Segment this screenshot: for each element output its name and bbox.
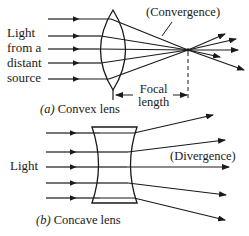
caption-letter: (b) <box>36 213 51 227</box>
caption-text: Concave lens <box>54 213 121 227</box>
concave-lens-panel <box>46 115 229 220</box>
label-line: Light <box>7 25 42 40</box>
concave-lens-icon <box>92 127 137 203</box>
caption-concave: (b) Concave lens <box>36 214 121 227</box>
diverging-rays <box>127 115 229 220</box>
caption-letter: (a) <box>40 102 55 116</box>
divergence-label: (Divergence) <box>170 150 236 163</box>
converging-rays <box>99 19 188 79</box>
convergence-leader <box>162 22 172 36</box>
label-line: distant <box>7 55 42 70</box>
convergence-label: (Convergence) <box>146 6 220 19</box>
label-line: length <box>138 96 169 109</box>
caption-convex: (a) Convex lens <box>40 103 120 116</box>
light-source-label-b: Light <box>10 159 38 172</box>
post-focus-rays <box>188 34 244 70</box>
caption-text: Convex lens <box>58 102 120 116</box>
label-line: source <box>7 70 42 85</box>
light-source-label-a: Light from a distant source <box>7 25 42 85</box>
focal-length-label: Focal length <box>138 83 169 109</box>
label-line: from a <box>7 40 42 55</box>
